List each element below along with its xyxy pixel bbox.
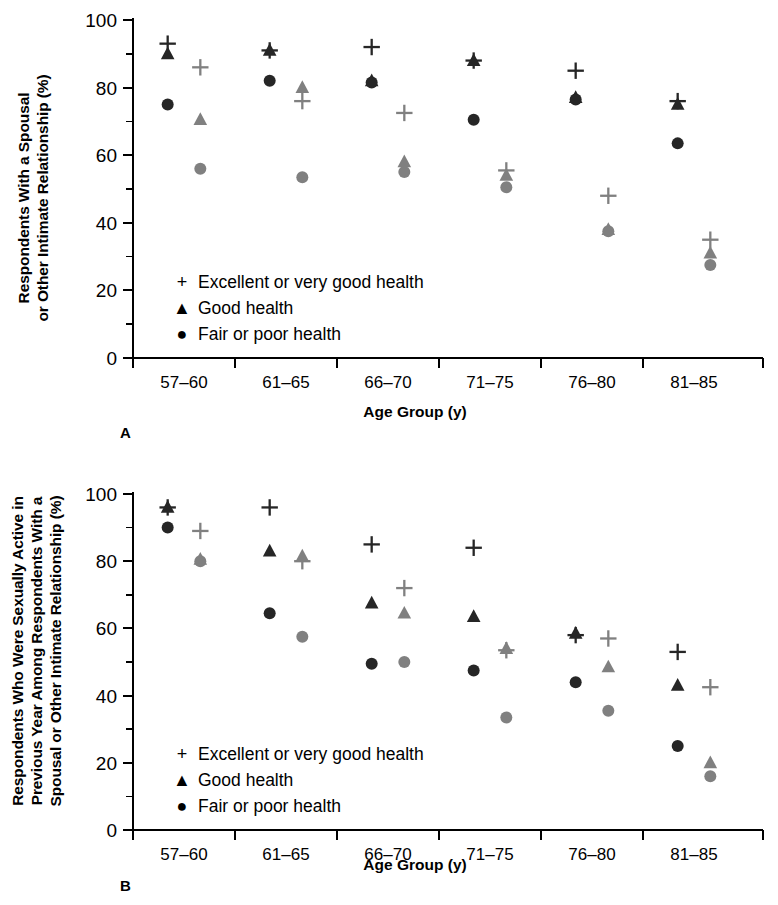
data-point-triangle <box>467 609 481 622</box>
data-point-circle <box>366 77 378 89</box>
data-point-circle <box>704 770 716 782</box>
y-tick-label: 60 <box>96 618 117 639</box>
y-tick-label: 80 <box>96 551 117 572</box>
data-point-triangle <box>398 606 412 619</box>
data-series <box>161 500 685 691</box>
data-point-triangle <box>671 97 685 110</box>
y-tick-label: 20 <box>96 280 117 301</box>
data-point-triangle <box>704 755 718 768</box>
data-point-circle <box>570 676 582 688</box>
data-point-triangle <box>263 544 277 557</box>
data-point-circle <box>162 99 174 111</box>
data-series <box>194 549 718 768</box>
data-point-circle <box>672 137 684 149</box>
data-series <box>162 522 684 752</box>
data-point-plus <box>294 93 310 109</box>
data-point-plus <box>396 105 412 121</box>
panel-b: Respondents Who Were Sexually Active in … <box>0 452 778 905</box>
data-point-triangle <box>398 155 412 168</box>
data-series <box>162 75 684 150</box>
legend: +Excellent or very good health▲Good heal… <box>173 744 424 816</box>
data-point-plus <box>363 536 379 552</box>
data-point-plus <box>567 63 583 79</box>
data-point-plus <box>192 59 208 75</box>
data-point-triangle <box>161 46 175 59</box>
panel-a-letter: A <box>120 424 131 441</box>
panel-a-x-axis-label: Age Group (y) <box>330 403 500 421</box>
panel-a-plot-area: 02040608010057–6061–6566–7071–7576–8081–… <box>0 0 778 452</box>
data-point-plus <box>702 232 718 248</box>
legend-marker-circle: ● <box>177 796 188 816</box>
data-point-triangle <box>365 596 379 609</box>
data-point-triangle <box>194 112 208 125</box>
y-tick-label: 80 <box>96 78 117 99</box>
data-point-plus <box>702 679 718 695</box>
y-tick-label: 40 <box>96 686 117 707</box>
legend-marker-plus: + <box>177 272 188 292</box>
legend-marker-triangle: ▲ <box>173 298 191 318</box>
y-tick-label: 100 <box>85 484 117 505</box>
data-point-circle <box>500 711 512 723</box>
data-point-plus <box>396 580 412 596</box>
data-point-circle <box>296 171 308 183</box>
data-point-plus <box>363 39 379 55</box>
data-point-circle <box>366 658 378 670</box>
data-point-circle <box>162 522 174 534</box>
data-point-plus <box>600 188 616 204</box>
data-point-circle <box>264 607 276 619</box>
data-series <box>159 35 685 109</box>
data-point-triangle <box>569 626 583 639</box>
data-point-triangle <box>602 660 616 673</box>
x-tick-label: 76–80 <box>568 373 615 392</box>
legend: +Excellent or very good health▲Good heal… <box>173 272 424 344</box>
data-point-circle <box>602 705 614 717</box>
panel-a: Respondents With a Spousal or Other Inti… <box>0 0 778 452</box>
x-tick-label: 81–85 <box>670 373 717 392</box>
data-point-plus <box>465 540 481 556</box>
data-series <box>192 59 718 248</box>
x-tick-label: 71–75 <box>466 373 513 392</box>
data-point-circle <box>704 259 716 271</box>
data-point-circle <box>264 75 276 87</box>
data-point-circle <box>398 166 410 178</box>
data-point-circle <box>398 656 410 668</box>
data-point-plus <box>261 499 277 515</box>
data-point-plus <box>192 523 208 539</box>
legend-label: Good health <box>198 770 293 790</box>
data-point-circle <box>296 631 308 643</box>
x-tick-label: 76–80 <box>568 845 615 864</box>
legend-label: Excellent or very good health <box>198 744 424 764</box>
y-tick-label: 40 <box>96 213 117 234</box>
legend-label: Fair or poor health <box>198 324 341 344</box>
data-point-plus <box>600 630 616 646</box>
legend-label: Fair or poor health <box>198 796 341 816</box>
y-tick-label: 60 <box>96 145 117 166</box>
data-point-circle <box>468 664 480 676</box>
legend-marker-circle: ● <box>177 324 188 344</box>
data-point-circle <box>602 225 614 237</box>
data-point-circle <box>194 555 206 567</box>
x-tick-label: 57–60 <box>160 845 207 864</box>
panel-b-letter: B <box>120 877 131 894</box>
legend-label: Excellent or very good health <box>198 272 424 292</box>
data-point-circle <box>672 740 684 752</box>
legend-label: Good health <box>198 298 293 318</box>
y-tick-label: 0 <box>106 820 117 841</box>
panel-b-plot-area: 02040608010057–6061–6566–7071–7576–8081–… <box>0 452 778 905</box>
legend-marker-plus: + <box>177 744 188 764</box>
y-tick-label: 20 <box>96 753 117 774</box>
y-tick-label: 0 <box>106 348 117 369</box>
data-point-circle <box>500 181 512 193</box>
data-point-triangle <box>296 549 310 562</box>
data-series <box>161 43 685 110</box>
data-point-triangle <box>296 80 310 93</box>
x-tick-label: 66–70 <box>364 373 411 392</box>
data-series <box>159 499 685 660</box>
x-tick-label: 61–65 <box>262 845 309 864</box>
panel-b-x-axis-label: Age Group (y) <box>330 856 500 874</box>
x-tick-label: 61–65 <box>262 373 309 392</box>
x-tick-label: 81–85 <box>670 845 717 864</box>
data-point-triangle <box>671 678 685 691</box>
data-point-circle <box>570 93 582 105</box>
data-series <box>194 80 718 258</box>
